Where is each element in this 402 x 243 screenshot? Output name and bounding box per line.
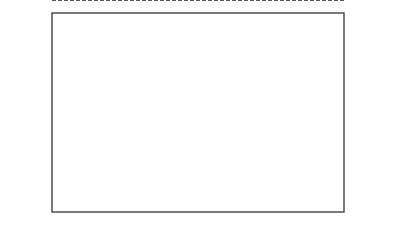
plot-frame bbox=[52, 13, 344, 212]
chart-canvas bbox=[0, 0, 402, 243]
